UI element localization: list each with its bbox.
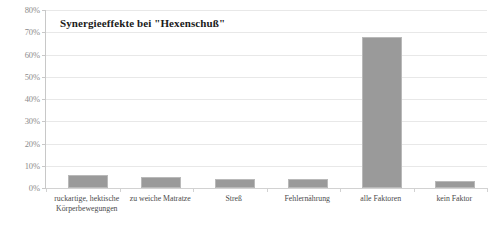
chart-title: Synergieeffekte bei "Hexenschuß" bbox=[60, 17, 225, 29]
y-axis-tick-label: 80% bbox=[0, 6, 40, 15]
y-axis-tick-label: 10% bbox=[0, 162, 40, 171]
y-axis-tick-label: 60% bbox=[0, 51, 40, 60]
bar-stress bbox=[215, 179, 255, 188]
x-tick-mark bbox=[193, 188, 194, 192]
bars-layer bbox=[46, 10, 487, 188]
x-axis-category-label-line: Körperbewegungen bbox=[40, 204, 134, 214]
y-axis-tick-label: 40% bbox=[0, 95, 40, 104]
y-axis-tick-label: 30% bbox=[0, 117, 40, 126]
x-tick-mark bbox=[414, 188, 415, 192]
y-axis-tick-label: 20% bbox=[0, 140, 40, 149]
bar-kein-faktor bbox=[435, 181, 475, 188]
y-axis-tick-label: 70% bbox=[0, 28, 40, 37]
x-axis-category-label-line: kein Faktor bbox=[407, 194, 500, 204]
x-tick-mark bbox=[267, 188, 268, 192]
bar-zu-weiche-matratze bbox=[141, 177, 181, 188]
bar-fehlernaehrung bbox=[288, 179, 328, 188]
x-tick-mark bbox=[120, 188, 121, 192]
x-tick-mark bbox=[46, 188, 47, 192]
x-axis-labels: ruckartige, hektische Körperbewegungen z… bbox=[46, 194, 487, 224]
x-tick-mark bbox=[487, 188, 488, 192]
x-tick-mark bbox=[340, 188, 341, 192]
bar-ruckartige-hektische-koerperbewegungen bbox=[68, 175, 108, 188]
bar-chart: 80% 70% 60% 50% 40% 30% 20% 10% 0% Syner… bbox=[0, 0, 500, 225]
y-axis-labels: 80% 70% 60% 50% 40% 30% 20% 10% 0% bbox=[0, 0, 40, 225]
x-axis-category-label: kein Faktor bbox=[407, 194, 500, 204]
y-axis-tick-label: 0% bbox=[0, 184, 40, 193]
y-axis-tick-label: 50% bbox=[0, 73, 40, 82]
bar-alle-faktoren bbox=[362, 37, 402, 188]
